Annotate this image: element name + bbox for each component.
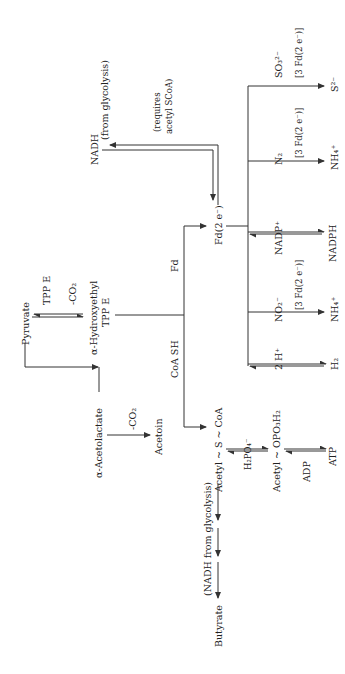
label-requires-acetyl-scoa: acetyl SCoA) [164,79,174,134]
label-fd-reduced: Fd(2 e⁻) [213,205,224,245]
label-hydroxyethyl: α-Hydroxyethyl [88,281,99,355]
label-sulfite: SO₃²⁻ [273,51,284,78]
label-from-glycolysis: (from glycolysis) [99,60,110,140]
label-ammonium-nitrite: NH₄⁺ [329,297,340,322]
label-nadp: NADP⁺ [273,221,284,255]
label-acetyl-phosphate: Acetyl ~ OPO₃H₂ [271,410,282,493]
label-pyruvate: Pyruvate [20,302,31,345]
label-3fd-nitrite: [3 Fd(2 e⁻)] [294,260,304,310]
label-acetolactate: α-Acetolactate [93,408,104,478]
label-coa-sh: CoA SH [169,340,180,378]
label-2h-plus: 2 H⁺ [273,348,284,370]
label-ammonium-n2: NH₄⁺ [329,145,340,170]
label-hydroxyethyl-tpp-e: TPP E [100,298,111,327]
label-acetoin: Acetoin [153,419,164,457]
pathway-labels: Pyruvate TPP E -CO₂ α-Hydroxyethyl TPP E… [20,28,340,647]
label-fd: Fd [169,259,180,272]
label-nitrite: NO₂⁻ [273,297,284,322]
label-3fd-sulfite: [3 Fd(2 e⁻)] [294,28,304,78]
label-3fd-n2: [3 Fd(2 e⁻)] [294,108,304,158]
label-sulfide: S²⁻ [329,77,340,92]
label-nadph: NADPH [327,225,338,262]
arrow-fd-to-nadh [110,145,218,205]
label-co2-loss-2: -CO₂ [127,408,138,430]
label-requires: (requires [152,93,162,133]
label-phosphate: H₂PO₄⁻ [243,439,253,470]
label-n2: N₂ [273,153,284,165]
arrow-nadh-to-fd [102,150,213,200]
metabolic-pathway-diagram: Pyruvate TPP E -CO₂ α-Hydroxyethyl TPP E… [0,0,345,674]
label-atp: ATP [327,446,338,467]
label-h2: H₂ [329,358,340,370]
label-co2-loss-1: -CO₂ [67,283,78,305]
label-butyrate: Butyrate [213,605,224,647]
label-nadh-from-glycolysis: (NADH from glycolysis) [202,482,213,596]
label-tpp-e: TPP E [41,276,52,305]
label-adp: ADP [301,461,312,483]
label-acetyl-scoa: Acetyl ~ S ~ CoA [213,407,224,493]
